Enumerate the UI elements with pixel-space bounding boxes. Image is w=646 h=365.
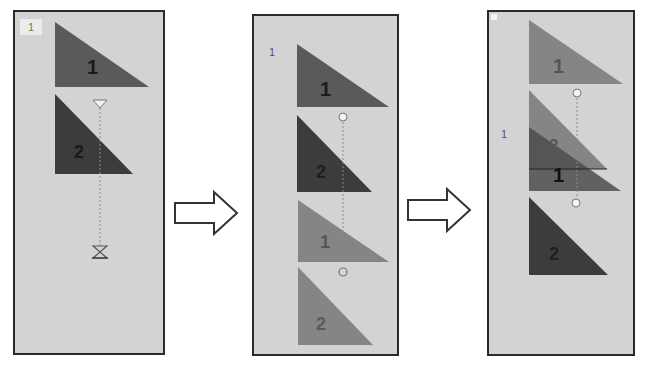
triangle-label: 2 (316, 314, 326, 335)
circle-marker-icon[interactable] (339, 268, 347, 276)
triangle-label: 1 (320, 78, 331, 101)
right-arrow-icon (405, 185, 475, 235)
triangle-label: 1 (553, 55, 564, 78)
triangle-shape-1[interactable] (297, 44, 389, 107)
panel-step-1: 1 1 2 (13, 10, 165, 355)
circle-marker-icon[interactable] (339, 113, 347, 121)
triangle-shape-2[interactable] (55, 94, 133, 174)
panel-2-canvas (254, 16, 399, 356)
panel-step-3: 1 1 2 1 2 (487, 10, 635, 356)
triangle-marker-icon[interactable] (93, 100, 107, 108)
circle-marker-icon[interactable] (572, 199, 580, 207)
triangle-label: 2 (316, 162, 326, 183)
triangle-label: 2 (74, 142, 84, 163)
triangle-shape-2-copy[interactable] (298, 267, 373, 345)
hourglass-marker-icon[interactable] (92, 246, 108, 258)
circle-marker-icon[interactable] (573, 89, 581, 97)
panel-step-2: 1 1 2 1 2 (252, 14, 399, 356)
triangle-shape-1[interactable] (55, 22, 149, 87)
right-arrow-icon (172, 188, 242, 238)
triangle-label: 1 (87, 56, 98, 79)
triangle-label: 2 (549, 136, 558, 156)
triangle-label: 1 (553, 164, 564, 187)
triangle-label: 1 (320, 232, 330, 253)
triangle-shape-2[interactable] (297, 115, 372, 192)
triangle-shape-2[interactable] (529, 197, 608, 275)
triangle-shape-1-copy[interactable] (529, 20, 623, 84)
triangle-label: 2 (549, 244, 559, 265)
